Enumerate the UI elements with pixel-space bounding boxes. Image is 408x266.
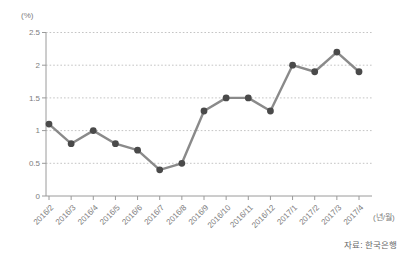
data-point bbox=[46, 121, 53, 128]
data-point bbox=[267, 108, 274, 115]
gridlines bbox=[46, 33, 372, 164]
y-axis bbox=[42, 33, 46, 197]
x-tick-label: 2016/7 bbox=[142, 203, 166, 227]
y-tick-label: 1 bbox=[36, 126, 41, 135]
data-point bbox=[201, 108, 208, 115]
data-point bbox=[178, 160, 185, 167]
x-tick-label: 2016/12 bbox=[250, 203, 277, 230]
data-point bbox=[333, 49, 340, 56]
x-tick-label: 2017/1 bbox=[275, 203, 299, 227]
data-point bbox=[245, 95, 252, 102]
x-tick-label: 2017/2 bbox=[297, 203, 321, 227]
line-chart-svg: (%) 00.511.522.5 2016/22016/32016/42016/… bbox=[0, 0, 408, 266]
data-point bbox=[134, 147, 141, 154]
data-point bbox=[356, 68, 363, 75]
x-tick-label: 2016/2 bbox=[32, 203, 56, 227]
y-tick-label: 1.5 bbox=[29, 94, 41, 103]
y-tick-label: 2 bbox=[36, 61, 41, 70]
data-point bbox=[156, 166, 163, 173]
chart-figure: (%) 00.511.522.5 2016/22016/32016/42016/… bbox=[0, 0, 408, 266]
data-point bbox=[289, 62, 296, 69]
x-axis-unit-label: (년/월) bbox=[373, 212, 395, 222]
source-label: 자료: 한국은행 bbox=[344, 240, 397, 250]
x-tick-label: 2016/5 bbox=[98, 203, 122, 227]
x-tick-label: 2016/4 bbox=[76, 203, 100, 227]
data-point bbox=[311, 68, 318, 75]
x-tick-label: 2016/3 bbox=[54, 203, 78, 227]
y-tick-labels: 00.511.522.5 bbox=[29, 28, 41, 201]
x-tick-labels: 2016/22016/32016/42016/52016/62016/72016… bbox=[32, 203, 366, 230]
data-point bbox=[223, 95, 230, 102]
data-point bbox=[112, 140, 119, 147]
y-tick-label: 0.5 bbox=[29, 159, 41, 168]
x-tick-label: 2016/8 bbox=[165, 203, 189, 227]
data-points bbox=[46, 49, 363, 174]
x-tick-label: 2017/4 bbox=[342, 203, 366, 227]
y-tick-label: 2.5 bbox=[29, 28, 41, 37]
data-point bbox=[68, 140, 75, 147]
y-axis-unit-label: (%) bbox=[21, 11, 34, 20]
x-tick-label: 2017/3 bbox=[320, 203, 344, 227]
x-axis bbox=[46, 196, 372, 200]
y-tick-label: 0 bbox=[36, 192, 41, 201]
data-point bbox=[90, 127, 97, 134]
x-tick-label: 2016/6 bbox=[120, 203, 144, 227]
x-tick-label: 2016/10 bbox=[206, 203, 233, 230]
